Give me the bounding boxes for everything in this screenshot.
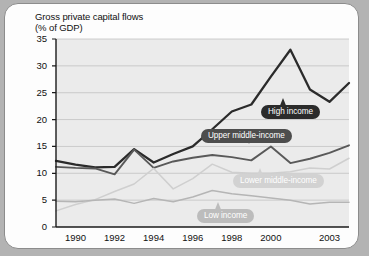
series-label-high-income: High income xyxy=(261,105,320,119)
y-axis-tick-label: 5 xyxy=(25,194,47,205)
x-axis-tick-label: 1990 xyxy=(59,232,93,243)
y-axis-tick-label: 20 xyxy=(25,114,47,125)
x-axis-tick-label: 2000 xyxy=(254,232,288,243)
chart-title: Gross private capital flows (% of GDP) xyxy=(35,11,143,33)
chart-card: Gross private capital flows (% of GDP) 0… xyxy=(4,3,359,249)
line-chart-svg xyxy=(5,4,359,249)
y-axis-tick-label: 25 xyxy=(25,87,47,98)
series-label-low-income: Low income xyxy=(197,209,254,223)
y-axis-tick-label: 0 xyxy=(25,221,47,232)
y-axis-tick-label: 35 xyxy=(25,33,47,44)
y-axis-tick-label: 30 xyxy=(25,60,47,71)
series-label-upper-middle-income: Upper middle-income xyxy=(201,129,292,143)
y-axis-tick-label: 10 xyxy=(25,167,47,178)
chart-plot-container: Gross private capital flows (% of GDP) 0… xyxy=(5,4,359,249)
x-axis-tick-label: 1994 xyxy=(137,232,171,243)
x-axis-tick-label: 2003 xyxy=(312,232,346,243)
series-label-lower-middle-income: Lower middle-income xyxy=(233,174,324,188)
x-axis-tick-label: 1992 xyxy=(98,232,132,243)
x-axis-tick-label: 1996 xyxy=(176,232,210,243)
x-axis-tick-label: 1998 xyxy=(215,232,249,243)
y-axis-tick-label: 15 xyxy=(25,140,47,151)
